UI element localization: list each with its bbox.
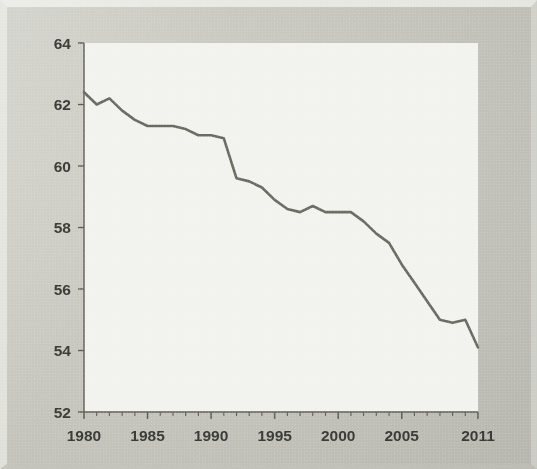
x-axis-tick-label: 2000 xyxy=(321,427,355,444)
y-axis-tick-label: 54 xyxy=(54,342,72,359)
chart-screenshot: the labor force participationrate has be… xyxy=(0,0,537,469)
y-axis-tick-labels: 52545658606264 xyxy=(54,35,72,421)
y-axis-tick-label: 60 xyxy=(54,158,71,175)
y-axis-tick-label: 58 xyxy=(54,219,72,236)
x-axis-tick-label: 2011 xyxy=(461,427,495,444)
x-axis-ticks xyxy=(84,412,478,419)
x-axis-tick-label: 2005 xyxy=(384,427,419,444)
x-axis-tick-label: 1980 xyxy=(67,427,101,444)
x-axis-tick-labels: 1980198519901995200020052011 xyxy=(67,427,495,444)
x-axis-tick-label: 1990 xyxy=(194,427,228,444)
x-axis-tick-label: 1995 xyxy=(257,427,292,444)
plot-area-background xyxy=(84,43,478,412)
y-axis-tick-label: 52 xyxy=(54,404,71,421)
y-axis-tick-label: 64 xyxy=(54,35,72,52)
y-axis-tick-label: 62 xyxy=(54,96,71,113)
x-axis-tick-label: 1985 xyxy=(130,427,165,444)
line-chart-figure: 52545658606264 1980198519901995200020052… xyxy=(0,0,537,469)
chart-canvas: 52545658606264 1980198519901995200020052… xyxy=(0,0,537,469)
y-axis-ticks xyxy=(78,43,84,412)
y-axis-tick-label: 56 xyxy=(54,281,72,298)
